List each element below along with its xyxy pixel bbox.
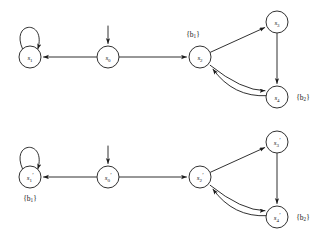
transition-system-diagram: s1s0s2s3s4s1′s0′s2′s3′s4′ {b1}{b2}{b1}{b… (0, 0, 319, 239)
state-node[interactable]: s1 (19, 46, 41, 68)
edge-straight (210, 28, 264, 53)
edges-layer (20, 26, 277, 216)
atomic-proposition-label: {b1} (23, 194, 37, 204)
nodes-layer: s1s0s2s3s4s1′s0′s2′s3′s4′ (19, 11, 288, 228)
set-labels-layer: {b1}{b2}{b1}{b2} (23, 30, 310, 223)
state-node[interactable]: s4 (266, 86, 288, 108)
state-node[interactable]: s0 (97, 46, 119, 68)
atomic-proposition-label: {b2} (296, 93, 310, 103)
atomic-proposition-label: {b2} (296, 213, 310, 223)
state-node[interactable]: s2′ (189, 166, 211, 188)
state-node[interactable]: s3 (266, 11, 288, 33)
edge-straight (210, 148, 264, 173)
state-node[interactable]: s1′ (19, 166, 41, 188)
state-node[interactable]: s2 (189, 46, 211, 68)
state-node[interactable]: s3′ (266, 131, 288, 153)
figure-root: s1s0s2s3s4s1′s0′s2′s3′s4′ {b1}{b2}{b1}{b… (0, 0, 319, 239)
atomic-proposition-label: {b1} (186, 30, 200, 40)
edge-curved-forward (210, 65, 265, 90)
state-node[interactable]: s0′ (97, 166, 119, 188)
edge-curved-forward (210, 185, 265, 210)
state-node[interactable]: s4′ (266, 206, 288, 228)
